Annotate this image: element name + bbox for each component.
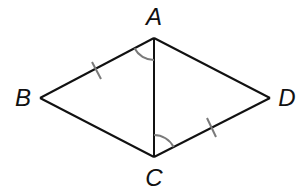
vertex-label-d: D <box>278 86 295 110</box>
vertex-label-c: C <box>145 166 162 190</box>
segment-da <box>154 38 270 98</box>
angle-arc-a <box>135 48 155 60</box>
segment-bc <box>40 98 154 157</box>
tick-mark-cd <box>207 118 216 137</box>
diagram-canvas: A B C D <box>0 0 305 195</box>
angle-arc-c <box>154 135 174 147</box>
segment-ab <box>40 38 154 98</box>
vertex-label-b: B <box>15 86 31 110</box>
vertex-label-a: A <box>146 5 162 29</box>
